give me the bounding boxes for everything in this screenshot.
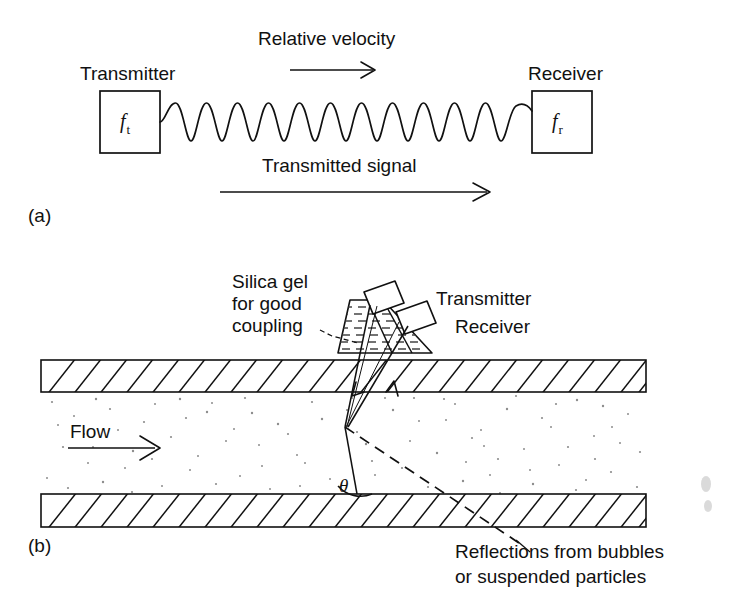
panel-a: Relative velocity Transmitter ft Receive…	[28, 28, 604, 226]
flow-label: Flow	[70, 421, 110, 442]
transmitted-signal-label: Transmitted signal	[262, 155, 417, 176]
panel-a-tag: (a)	[28, 205, 51, 226]
theta-symbol: θ	[339, 475, 348, 496]
panel-b: θ Flow Silica gel for good coupling Tran…	[28, 271, 712, 587]
transmitted-signal-arrow	[220, 183, 490, 201]
reflections-label-line2: or suspended particles	[455, 566, 646, 587]
receiver-label-b: Receiver	[455, 316, 531, 337]
silica-gel-callout: Silica gel for good coupling	[232, 271, 358, 343]
silica-gel-label-line1: Silica gel	[232, 271, 308, 292]
diagram-canvas: Relative velocity Transmitter ft Receive…	[0, 0, 742, 608]
relative-velocity-arrow	[290, 62, 375, 78]
relative-velocity-label: Relative velocity	[258, 28, 396, 49]
transmitter-label-b: Transmitter	[436, 288, 532, 309]
pipe-wall-bottom	[41, 492, 667, 531]
silica-gel-label-line3: coupling	[232, 315, 303, 336]
silica-gel-label-line2: for good	[232, 293, 302, 314]
reflections-label-line1: Reflections from bubbles	[455, 541, 664, 562]
receiver-label-a: Receiver	[528, 63, 604, 84]
panel-b-tag: (b)	[28, 535, 51, 556]
scan-artifact	[701, 476, 712, 512]
ultrasonic-wave	[160, 103, 532, 141]
transmitter-label-a: Transmitter	[80, 63, 176, 84]
reflections-callout: Reflections from bubbles or suspended pa…	[455, 540, 664, 587]
figure-root: Relative velocity Transmitter ft Receive…	[0, 0, 742, 608]
